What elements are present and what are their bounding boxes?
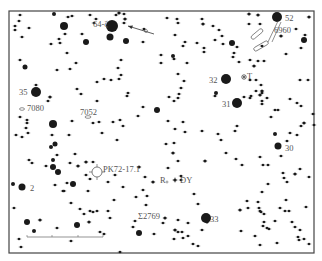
label-31: 31 [222,99,231,109]
star [107,34,114,41]
star [19,184,26,191]
label-30: 30 [285,143,294,153]
star [11,182,15,186]
star [51,158,55,162]
label-32: 32 [209,75,218,85]
star-labels: 64-ζ526960357080705232T31302PK72-17.1RDY… [19,13,294,224]
star [171,54,175,58]
label-7052: 7052 [80,107,97,117]
galaxy-7080-icon [20,108,25,111]
star [23,65,28,70]
star [52,12,56,16]
star [50,164,56,170]
star-field [11,12,316,254]
star [301,37,307,43]
star [49,120,57,128]
star [74,222,80,228]
variable-star-R-icon [166,181,168,183]
star [273,132,277,136]
star [123,38,129,44]
arrow-head-icon [128,26,133,30]
star [55,169,61,175]
label-35: 35 [19,87,28,97]
star [232,98,242,108]
label-6960: 6960 [274,25,291,35]
star [275,143,282,150]
chart-frame [9,11,314,253]
nebula-6960-icon [250,28,263,40]
label-DY: DY [180,175,192,185]
label-52: 52 [285,13,294,23]
label-Sigma2769: Σ2769 [138,211,160,221]
star [53,142,58,147]
star [154,107,160,113]
star [136,230,142,236]
star-chart: 64-ζ526960357080705232T31302PK72-17.1RDY… [0,0,322,261]
star [70,181,76,187]
star [60,22,68,30]
star [272,12,282,22]
label-7080: 7080 [27,103,44,113]
label-64-zeta: 64-ζ [93,19,108,29]
star [83,39,89,45]
label-PK72-17.1: PK72-17.1 [103,164,140,174]
star [214,91,218,95]
label-2: 2 [30,183,34,193]
label-33: 33 [210,214,219,224]
star [32,229,36,233]
label-R: R [160,175,166,185]
planetary-nebula-icon [92,167,102,177]
star [229,40,235,46]
star [24,219,30,225]
star [221,74,231,84]
star [49,145,53,149]
scale-bar [27,235,103,237]
label-T: T [247,71,253,81]
star [31,87,41,97]
